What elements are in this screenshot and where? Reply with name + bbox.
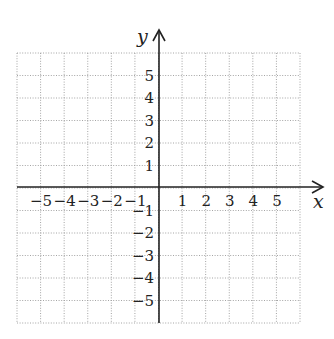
x-tick-label: 2 — [201, 192, 211, 210]
y-tick-label: −2 — [132, 224, 154, 242]
x-tick-label: −4 — [54, 192, 76, 210]
y-tick-label: 1 — [144, 157, 154, 175]
y-tick-label: −1 — [132, 202, 154, 220]
x-axis-label: x — [313, 190, 324, 212]
y-tick-label: 3 — [144, 112, 154, 130]
x-tick-label: −2 — [101, 192, 123, 210]
coordinate-plane: x y −5−4−3−2−112345 54321−1−2−3−4−5 — [0, 0, 334, 339]
y-tick-label: 5 — [144, 67, 154, 85]
y-axis-label: y — [136, 25, 148, 47]
x-tick-label: 5 — [272, 192, 282, 210]
y-tick-label: −3 — [132, 247, 154, 265]
y-tick-label: −4 — [132, 269, 154, 287]
x-tick-label: −5 — [30, 192, 52, 210]
y-tick-label: −5 — [132, 292, 154, 310]
x-tick-label: 4 — [249, 192, 259, 210]
x-tick-label: −3 — [77, 192, 99, 210]
x-tick-labels: −5−4−3−2−112345 — [30, 192, 282, 210]
x-tick-label: 3 — [225, 192, 235, 210]
x-tick-label: 1 — [178, 192, 188, 210]
y-tick-label: 2 — [144, 134, 154, 152]
y-tick-label: 4 — [144, 89, 154, 107]
